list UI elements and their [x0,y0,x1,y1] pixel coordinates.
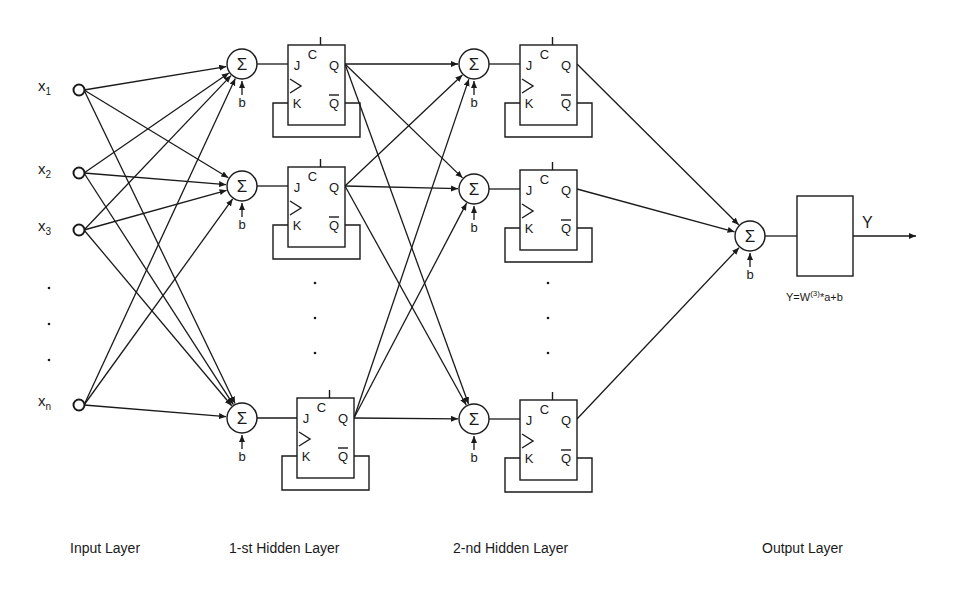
input-subscript: n [46,401,52,412]
output-y-label: Y [862,214,873,232]
k-label: K [293,218,302,233]
q-label: Q [561,413,571,428]
ellipsis-dot [48,287,51,290]
hidden2-layer-label: 2-nd Hidden Layer [453,540,568,556]
ellipsis-dot [547,352,550,355]
input-subscript: 3 [46,226,52,237]
j-label: J [526,413,533,428]
j-label: J [526,183,533,198]
q-label: Q [329,58,339,73]
j-label: J [294,58,301,73]
bias-label: b [746,267,753,282]
bias-label: b [238,217,245,232]
clock-label: C [540,172,549,187]
ellipsis-dot [314,317,317,320]
input-node-1 [74,85,85,96]
layer2-flipflop-1: CJQKQ [505,37,592,137]
ellipsis-dot [547,282,550,285]
input-label-2: x2 [38,160,51,180]
input-subscript: 1 [46,86,52,97]
q-label: Q [561,58,571,73]
hidden1-to-hidden2-arrow [345,186,466,405]
k-label: K [293,96,302,111]
sigma-icon: Σ [469,55,480,74]
hidden1-to-hidden2-arrow [345,75,462,186]
input-node-3 [74,225,85,236]
input-base: x [38,77,46,94]
linear-activation-box [797,196,853,276]
q-label: Q [561,183,571,198]
input-to-hidden1-arrow [84,73,229,173]
clock-label: C [540,47,549,62]
hidden1-to-hidden2-arrow [345,64,463,178]
input-base: x [38,217,46,234]
q-label: Q [338,411,348,426]
hidden2-to-output-arrow [577,248,739,419]
input-base: x [38,392,46,409]
input-label-3: x3 [38,217,51,237]
clock-label: C [317,400,326,415]
formula-suffix: *a+b [820,291,843,303]
ellipsis-dot [314,352,317,355]
qbar-label: Q [329,218,339,233]
q-label: Q [329,180,339,195]
bias-label: b [470,450,477,465]
k-label: K [525,221,534,236]
output-formula: Y=W(3)*a+b [786,289,843,303]
j-label: J [294,180,301,195]
sigma-icon: Σ [745,227,756,246]
sigma-icon: Σ [237,55,248,74]
bias-label: b [238,449,245,464]
hidden1-to-hidden2-arrow [345,186,458,189]
ellipsis-dot [48,323,51,326]
bias-label: b [470,220,477,235]
input-to-hidden1-arrow [84,190,227,230]
k-label: K [525,96,534,111]
k-label: K [302,449,311,464]
layer2-flipflop-2: CJQKQ [505,162,592,262]
input-to-hidden1-arrow [84,230,232,406]
neural-network-diagram: ΣbCJQKQΣbCJQKQΣbCJQKQΣbCJQKQΣbCJQKQΣbCJQ… [0,0,954,592]
sigma-icon: Σ [469,410,480,429]
input-to-hidden1-arrow [84,76,231,230]
hidden1-layer-label: 1-st Hidden Layer [229,540,340,556]
sigma-icon: Σ [237,177,248,196]
j-label: J [303,411,310,426]
input-to-hidden1-arrow [84,67,226,90]
input-label-n: xn [38,392,51,412]
input-to-hidden1-arrow [84,405,226,417]
input-label-1: x1 [38,77,51,97]
hidden1-to-hidden2-arrow [354,418,458,419]
qbar-label: Q [338,449,348,464]
qbar-label: Q [561,451,571,466]
hidden2-to-output-arrow [577,64,739,225]
layer1-flipflop-1: CJQKQ [273,37,360,137]
input-to-hidden1-arrow [84,199,233,405]
input-layer-label: Input Layer [70,540,140,556]
input-to-hidden1-arrow [84,173,226,185]
input-node-n [74,400,85,411]
connections [84,64,916,450]
ellipsis-dot [48,359,51,362]
hidden1-to-hidden2-arrow [354,203,467,418]
formula-prefix: Y=W [786,291,810,303]
clock-label: C [308,169,317,184]
input-to-hidden1-arrow [84,173,233,405]
clock-label: C [308,47,317,62]
formula-superscript: (3) [810,289,820,298]
qbar-label: Q [329,96,339,111]
layer2-flipflop-3: CJQKQ [505,392,592,492]
sigma-icon: Σ [469,180,480,199]
j-label: J [526,58,533,73]
input-node-2 [74,168,85,179]
sigma-icon: Σ [237,409,248,428]
hidden2-to-output-arrow [577,189,735,232]
output-layer-label: Output Layer [762,540,843,556]
input-subscript: 2 [46,169,52,180]
bias-label: b [238,95,245,110]
hidden1-to-hidden2-arrow [354,79,469,418]
qbar-label: Q [561,96,571,111]
layer1-flipflop-3: CJQKQ [282,390,369,490]
input-base: x [38,160,46,177]
ellipsis-dot [314,282,317,285]
